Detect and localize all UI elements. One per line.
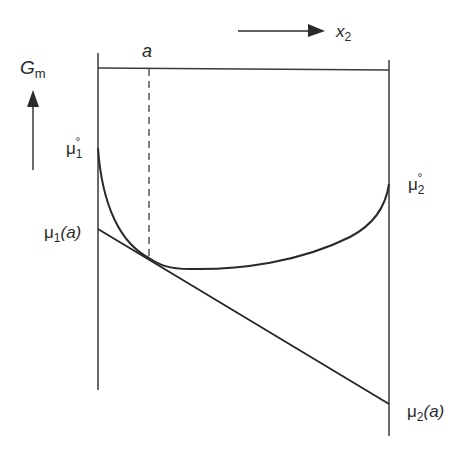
mu2-at-a-label: μ2(a)	[407, 403, 444, 420]
mu1-at-a-label: μ1(a)	[44, 224, 81, 241]
x2-arrow-head-icon	[308, 24, 325, 37]
composition-a-label: a	[142, 42, 152, 60]
mu2-standard-label: μ2°	[408, 176, 422, 193]
gibbs-energy-curve	[98, 148, 389, 269]
tangent-line	[98, 229, 389, 404]
gm-arrow-head-icon	[27, 90, 39, 107]
gm-axis-label: Gm	[20, 58, 46, 77]
composition-bar	[98, 68, 389, 70]
x2-axis-label: x2	[336, 23, 351, 40]
mu1-standard-label: μ1°	[66, 140, 80, 157]
